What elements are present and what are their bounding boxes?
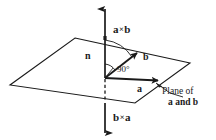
angle-arc-small [105,64,115,70]
label-normal-n: n [85,51,91,61]
label-a-cross-b-left: a [113,23,119,35]
label-b-cross-a: b×a [113,112,130,123]
label-plane-a-and-b: a and b [168,98,198,108]
cross-product-diagram: a×b b×a n b a 90° Plane of a and b [0,0,216,140]
label-angle-90: 90° [117,65,130,74]
label-b-cross-a-right: a [125,111,131,123]
label-a-cross-b-right: b [124,23,130,35]
angle-arc-large [105,40,132,57]
diagram-canvas [0,0,216,140]
vector-a-arrow [105,78,158,81]
label-a-cross-b: a×b [113,24,130,35]
label-vector-a: a [137,84,142,94]
label-vector-b: b [143,52,149,62]
label-plane-of: Plane of [162,87,193,97]
